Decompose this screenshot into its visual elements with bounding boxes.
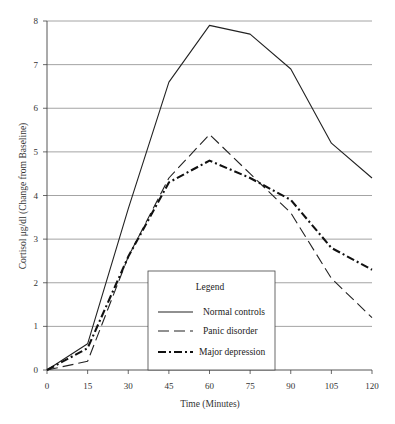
- y-tick-label: 8: [34, 16, 39, 26]
- x-tick-label: 45: [164, 381, 174, 391]
- y-tick-label: 0: [34, 365, 39, 375]
- y-tick-label: 7: [34, 60, 39, 70]
- x-tick-label: 60: [205, 381, 215, 391]
- y-tick-label: 1: [34, 321, 39, 331]
- legend-label-panic: Panic disorder: [203, 326, 258, 336]
- x-tick-label: 90: [286, 381, 296, 391]
- y-tick-label: 3: [34, 234, 39, 244]
- y-axis-title: Cortisol μg/dl (Change from Baseline): [18, 123, 29, 270]
- legend-label-depression: Major depression: [199, 347, 265, 357]
- x-tick-label: 120: [365, 381, 379, 391]
- legend-title: Legend: [196, 282, 225, 292]
- y-tick-label: 4: [34, 191, 39, 201]
- cortisol-line-chart: 0123456780153045607590105120 Time (Minut…: [0, 0, 395, 424]
- x-tick-label: 105: [325, 381, 339, 391]
- x-tick-label: 15: [83, 381, 93, 391]
- y-tick-label: 2: [34, 278, 39, 288]
- x-tick-label: 75: [246, 381, 256, 391]
- x-tick-label: 0: [45, 381, 50, 391]
- legend: Legend Normal controls Panic disorder Ma…: [148, 271, 275, 370]
- legend-label-normal: Normal controls: [203, 307, 265, 317]
- x-axis-title: Time (Minutes): [180, 399, 240, 410]
- y-tick-label: 5: [34, 147, 39, 157]
- x-tick-label: 30: [124, 381, 134, 391]
- y-tick-label: 6: [34, 103, 39, 113]
